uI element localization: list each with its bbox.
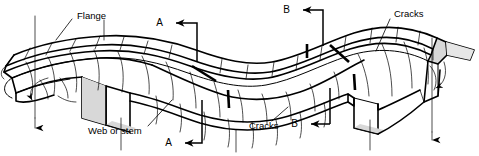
right-end-wing-shade — [446, 42, 474, 60]
right-deflection-arc — [436, 62, 446, 88]
web-contour — [404, 42, 412, 88]
section-b-bottom-label: B — [291, 118, 298, 129]
flange-rib — [320, 46, 322, 60]
left-end-cap-curve — [4, 55, 16, 93]
flange-rib — [220, 59, 222, 73]
flange-rib — [272, 62, 274, 76]
web-notch-right-top — [354, 98, 378, 104]
web-block-right — [348, 94, 354, 106]
beam-drawing-canvas: A A B B Flange — [0, 0, 479, 156]
crack-mark — [354, 74, 355, 90]
bottom-contour — [228, 119, 230, 147]
web-bottom-left — [16, 77, 82, 93]
bottom-flange-bottom-edge — [130, 101, 348, 130]
section-plane-a: A A — [156, 17, 202, 148]
right-end-inner-line-b — [420, 90, 424, 102]
web-contour — [70, 52, 77, 92]
bottom-contour — [300, 113, 302, 138]
web-or-stem-label: Web or stem — [88, 125, 142, 136]
flange-top-near-edge — [6, 37, 433, 73]
section-a-top-arrow — [176, 23, 197, 24]
beam-distortion-diagram: A A B B Flange — [0, 0, 479, 156]
web-leader-line — [148, 100, 172, 126]
web-top-left — [12, 58, 152, 78]
cracks-top-right-label: Cracks — [394, 8, 424, 19]
beam-body — [1, 27, 474, 134]
callout-flange: Flange — [56, 10, 106, 40]
web-contour — [60, 78, 68, 98]
flange-rib — [344, 36, 346, 50]
flange-rib — [396, 27, 398, 42]
section-b-top-arrow — [303, 10, 323, 11]
flange-rib — [169, 45, 172, 58]
flange-label: Flange — [77, 10, 106, 21]
web-contour — [26, 62, 33, 95]
right-detail-arc — [430, 66, 436, 90]
section-a-bottom-arrow — [185, 128, 202, 143]
web-contour — [48, 57, 55, 94]
web-contour — [190, 72, 196, 108]
flange-rib — [370, 28, 372, 43]
web-contour — [214, 82, 220, 117]
section-a-bottom-label: A — [165, 137, 172, 148]
left-detail-arc — [58, 96, 76, 102]
crack-mark — [228, 90, 229, 108]
flange-rib — [296, 56, 298, 70]
section-b-top-label: B — [283, 4, 290, 15]
flange-rib — [120, 37, 124, 50]
web-right-run-top — [378, 90, 420, 110]
cracks-bottom-center-label: Cracks — [249, 120, 279, 131]
web-contour — [382, 44, 392, 96]
web-contour — [238, 90, 243, 122]
flange-rib — [70, 39, 76, 51]
section-a-top-label: A — [156, 17, 163, 28]
flange-top-far-edge — [14, 27, 437, 63]
flange-rib — [95, 36, 100, 49]
flange-leader-line — [56, 19, 72, 40]
left-end-rounded-bottom — [5, 78, 13, 98]
callout-cracks-bottom-center: Cracks — [249, 107, 288, 131]
